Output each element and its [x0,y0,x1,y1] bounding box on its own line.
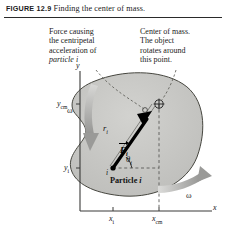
theta-subscript: i [130,160,132,166]
particle-label-index: i [139,176,141,185]
x-axis-label: x [213,203,217,212]
force-annotation-line2: the centripetal [49,36,127,45]
y-cm-tick-label: ycm [57,99,67,110]
y-i-subscript: i [68,168,70,174]
y-i-tick-label: yi [64,163,69,174]
force-annotation: Force causing the centripetal accelerati… [49,27,127,65]
radius-subscript: i [106,129,108,135]
com-annotation: Center of mass. The object rotates aroun… [140,27,224,65]
force-annotation-line3: acceleration of [49,46,127,55]
com-annotation-line2: The object [140,36,224,45]
com-annotation-line3: rotates around [140,46,224,55]
y-axis-label: y [76,61,80,70]
com-annotation-line1: Center of mass. [140,27,224,36]
force-annotation-line4: particle i [49,55,127,64]
particle-label: Particle i [110,176,142,185]
x-cm-tick-label: xcm [152,214,162,225]
x-i-subscript: i [113,219,115,225]
omega-label-bottom: ω [186,190,192,200]
com-annotation-line4: this point. [140,55,224,64]
omega-arrow-bottom-head [197,166,212,182]
x-i-tick-label: xi [109,214,114,225]
particle-dot [110,165,115,170]
radius-label: ri [103,123,108,135]
theta-label: θi [126,154,132,166]
particle-label-text: Particle [110,176,139,185]
x-cm-subscript: cm [156,219,163,225]
force-annotation-line4-text: particle i [49,55,78,64]
omega-label-top: ω [67,105,73,115]
particle-index-label: i [106,168,108,177]
force-annotation-line1: Force causing [49,27,127,36]
